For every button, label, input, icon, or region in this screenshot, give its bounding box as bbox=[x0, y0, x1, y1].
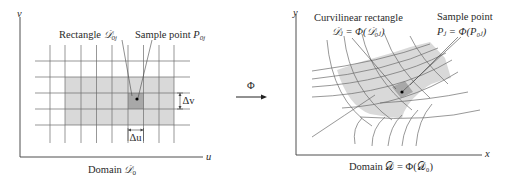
curvilinear-rectangle-title: Curvilinear rectangle bbox=[314, 12, 403, 23]
sample-point-formula: Pⱼ = Φ(P₀ⱼ) bbox=[436, 26, 487, 38]
curvilinear-region-fill bbox=[337, 42, 451, 118]
y-axis-label: y bbox=[292, 7, 298, 18]
rectangle-d0j bbox=[128, 93, 144, 109]
rectangle-callout-label: Rectangle 𝒟0j bbox=[59, 29, 117, 42]
right-domain-caption: Domain 𝒟 = Φ(𝒟₀) bbox=[349, 161, 433, 173]
delta-v-label: Δv bbox=[183, 95, 196, 106]
delta-u-label: Δu bbox=[130, 132, 143, 143]
v-axis-label: v bbox=[17, 8, 22, 19]
curvilinear-rectangle-formula: 𝒟ⱼ = Φ(𝒟₀ⱼ) bbox=[332, 26, 385, 38]
x-axis-label: x bbox=[484, 148, 490, 159]
mapping-arrow: Φ bbox=[236, 80, 267, 100]
phi-mapping-label: Φ bbox=[247, 80, 255, 91]
sample-point-title: Sample point bbox=[437, 11, 493, 22]
right-panel-xy-domain: y x Curvilinear rectangle 𝒟ⱼ = Φ(𝒟₀ⱼ) Sa… bbox=[292, 7, 493, 173]
change-of-variables-diagram: v u Rectangle 𝒟0j Sample point P0j Δv bbox=[0, 0, 508, 182]
left-panel-uv-domain: v u Rectangle 𝒟0j Sample point P0j Δv bbox=[17, 8, 211, 177]
sample-point-callout-label: Sample point P0j bbox=[135, 29, 205, 42]
sample-point-pj bbox=[400, 90, 403, 93]
u-axis-label: u bbox=[206, 151, 211, 162]
sample-point-p0j bbox=[135, 97, 138, 100]
left-domain-caption: Domain 𝒟0 bbox=[88, 164, 136, 177]
